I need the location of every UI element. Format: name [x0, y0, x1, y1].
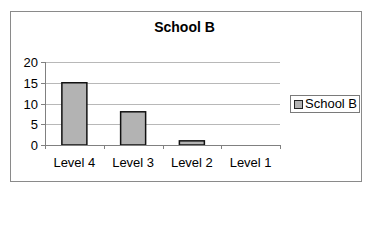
- legend-label: School B: [305, 96, 357, 111]
- bar-level-4: [62, 83, 87, 145]
- y-tick-label: 15: [18, 76, 38, 91]
- y-tick-label: 0: [18, 138, 38, 153]
- legend-swatch-icon: [294, 100, 303, 109]
- x-tick-label: Level 3: [104, 155, 162, 170]
- y-tick-label: 20: [18, 55, 38, 70]
- bar-level-2: [179, 141, 204, 145]
- y-tick-label: 5: [18, 117, 38, 132]
- bar-level-3: [121, 112, 146, 145]
- x-tick-label: Level 1: [222, 155, 280, 170]
- y-tick-label: 10: [18, 97, 38, 112]
- x-tick-label: Level 4: [45, 155, 103, 170]
- bars: [62, 83, 205, 145]
- legend: School B: [290, 95, 360, 113]
- x-tick-label: Level 2: [163, 155, 221, 170]
